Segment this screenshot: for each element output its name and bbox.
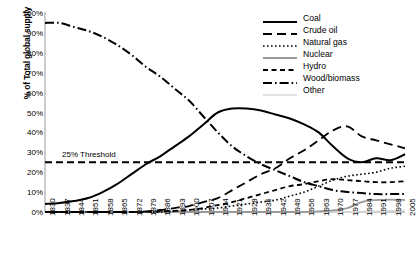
legend-item-label: Other (303, 86, 325, 95)
legend-swatch-icon (263, 61, 297, 71)
x-axis-tick-label: 1900 (192, 198, 201, 216)
legend-item-label: Coal (303, 14, 321, 23)
x-axis-tick-label: 1837 (63, 198, 72, 216)
legend-item-label: Wood/biomass (303, 74, 360, 83)
x-axis-tick-label: 1893 (178, 198, 187, 216)
legend-swatch-icon (263, 37, 297, 47)
legend-swatch-icon (263, 74, 297, 84)
legend-item-label: Hydro (303, 62, 326, 71)
x-axis-tick-label: 1886 (163, 198, 172, 216)
x-axis-tick-label: 1949 (293, 198, 302, 216)
legend-swatch-icon (263, 86, 297, 96)
legend-swatch-icon (263, 13, 297, 23)
legend-item-natural-gas[interactable]: Natural gas (263, 36, 411, 48)
x-axis-tick-label: 1984 (365, 198, 374, 216)
x-axis-tick-label: 1977 (351, 198, 360, 216)
threshold-annotation-label: 25% Threshold (62, 150, 116, 159)
legend-item-wood-biomass[interactable]: Wood/biomass (263, 72, 411, 84)
legend-swatch-icon (263, 25, 297, 35)
x-axis-tick-label: 1907 (207, 198, 216, 216)
x-axis-tick-label: 1865 (120, 198, 129, 216)
legend-item-crude-oil[interactable]: Crude oil (263, 24, 411, 36)
legend-item-hydro[interactable]: Hydro (263, 60, 411, 72)
x-axis-tick-label: 1970 (336, 198, 345, 216)
chart-legend: CoalCrude oilNatural gasNuclearHydroWood… (263, 12, 411, 97)
x-axis-tick-label: 1928 (250, 198, 259, 216)
x-axis-tick-label: 1956 (307, 198, 316, 216)
x-axis-tick-label: 1858 (106, 198, 115, 216)
x-axis-tick-label: 1844 (77, 198, 86, 216)
legend-item-other[interactable]: Other (263, 85, 411, 97)
x-axis-tick-label: 1872 (135, 198, 144, 216)
x-axis-tick-label: 2005 (408, 198, 417, 216)
legend-item-nuclear[interactable]: Nuclear (263, 48, 411, 60)
x-axis-tick-label: 1991 (379, 198, 388, 216)
legend-swatch-icon (263, 49, 297, 59)
x-axis-tick-label: 1914 (221, 198, 230, 216)
legend-item-label: Nuclear (303, 50, 333, 59)
legend-item-coal[interactable]: Coal (263, 12, 411, 24)
x-axis-tick-label: 1942 (279, 198, 288, 216)
legend-item-label: Crude oil (303, 26, 337, 35)
x-axis-tick-label: 1921 (235, 198, 244, 216)
x-axis-tick-label: 1879 (149, 198, 158, 216)
x-axis-tick-label: 1851 (91, 198, 100, 216)
x-axis-tick-label: 1963 (322, 198, 331, 216)
legend-item-label: Natural gas (303, 38, 347, 47)
x-axis-tick-label: 1830 (48, 198, 57, 216)
x-axis-tick-label: 1998 (394, 198, 403, 216)
x-axis-tick-label: 1935 (264, 198, 273, 216)
